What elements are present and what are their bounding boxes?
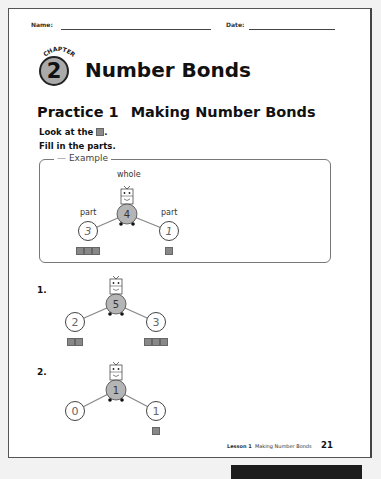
footer-lesson-title: Making Number Bonds bbox=[255, 443, 312, 449]
counter-square-icon bbox=[152, 427, 160, 435]
right-counters bbox=[152, 427, 160, 435]
svg-text:1: 1 bbox=[113, 385, 119, 396]
page-number: 21 bbox=[321, 440, 333, 450]
workbook-page: Name: Date: CHAPTER 2 Number Bonds Pract… bbox=[8, 8, 372, 458]
bottom-black-bar bbox=[231, 465, 362, 479]
footer-lesson: Lesson 1 Making Number Bonds bbox=[227, 443, 312, 449]
footer-lesson-number: Lesson 1 bbox=[227, 443, 252, 449]
left-part-circle[interactable]: 0 bbox=[65, 401, 85, 421]
right-part-circle[interactable]: 1 bbox=[146, 401, 166, 421]
